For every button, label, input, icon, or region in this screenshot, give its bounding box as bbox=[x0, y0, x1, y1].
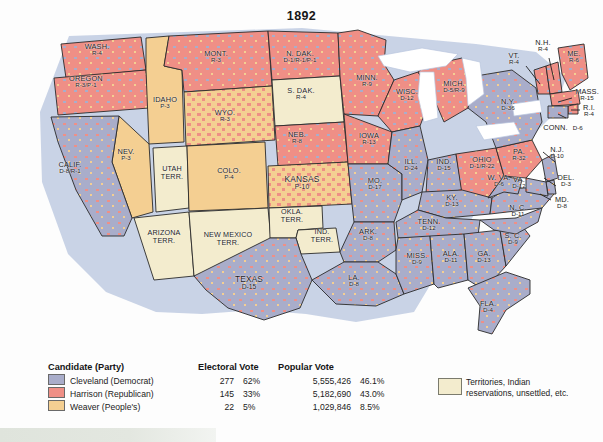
legend-electoral-vote-weaver: 22 bbox=[198, 402, 243, 412]
legend-popular-pct-cleveland: 46.1% bbox=[360, 376, 408, 386]
legend-popular-vote-cleveland: 5,555,426 bbox=[287, 376, 360, 386]
label-maine: ME. R-6 bbox=[562, 50, 586, 64]
label-rhode-island: R.I. R-4 bbox=[578, 104, 600, 118]
swatch-peoples-cell bbox=[48, 400, 70, 413]
label-iowa: IOWA R-13 bbox=[350, 132, 388, 146]
label-nebraska: NEB. R-8 bbox=[278, 131, 316, 145]
territory-legend-line1: Territories, Indian bbox=[466, 377, 530, 387]
legend-electoral-pct-harrison: 33% bbox=[243, 389, 287, 399]
label-west-virginia: W. VA. D-6 bbox=[484, 174, 514, 188]
label-wyoming: WYO. R-3 bbox=[206, 109, 244, 123]
label-colorado: COLO. P-4 bbox=[209, 167, 249, 181]
electoral-map-figure: 1892 bbox=[0, 0, 603, 442]
legend-header-popular-vote: Popular Vote bbox=[278, 362, 388, 372]
label-connecticut: CONN. D-6 bbox=[534, 124, 592, 132]
label-montana: MONT. R-3 bbox=[195, 50, 237, 64]
color-swatch-peoples bbox=[48, 400, 65, 411]
us-electoral-map-1892: WASH. R-4 OREGON R-3/P-1 IDAHO P-3 MONT.… bbox=[6, 22, 598, 352]
legend-electoral-pct-cleveland: 62% bbox=[243, 376, 287, 386]
legend-candidate-weaver: Weaver (People's) bbox=[70, 402, 198, 412]
label-oklahoma-territory: OKLA. TERR. bbox=[272, 208, 312, 223]
legend-header-electoral-vote: Electoral Vote bbox=[198, 362, 278, 372]
label-massachusetts: MASS. R-15 bbox=[572, 88, 602, 102]
label-utah-territory: UTAH TERR. bbox=[151, 165, 193, 180]
label-wisconsin: WISC. D-12 bbox=[388, 88, 426, 102]
label-nevada: NEV. P-3 bbox=[108, 148, 144, 162]
page-bottom-band bbox=[0, 428, 216, 442]
label-new-jersey: N.J. D-10 bbox=[545, 146, 569, 160]
label-mississippi: MISS. D-9 bbox=[402, 252, 432, 266]
legend-row-harrison: Harrison (Republican) 145 33% 5,182,690 … bbox=[48, 387, 468, 400]
map-legend: Candidate (Party) Electoral Vote Popular… bbox=[48, 362, 468, 413]
label-delaware: DEL. D-3 bbox=[554, 174, 578, 188]
state-south-dakota bbox=[272, 76, 344, 126]
label-michigan: MICH. D-5/R-9 bbox=[431, 80, 477, 94]
label-south-dakota: S. DAK. R-4 bbox=[275, 87, 327, 101]
label-oregon: OREGON R-3/P-1 bbox=[58, 75, 114, 89]
label-kentucky: KY. D-13 bbox=[438, 194, 466, 208]
legend-header-candidate: Candidate (Party) bbox=[48, 362, 198, 372]
legend-electoral-pct-weaver: 5% bbox=[243, 402, 287, 412]
label-florida: FLA. D-4 bbox=[474, 300, 502, 314]
legend-row-cleveland: Cleveland (Democrat) 277 62% 5,555,426 4… bbox=[48, 374, 468, 387]
swatch-republican-cell bbox=[48, 387, 70, 400]
label-louisiana: LA. D-8 bbox=[340, 274, 368, 288]
territory-legend-line2: reservations, unsettled, etc. bbox=[466, 388, 568, 398]
legend-row-weaver: Weaver (People's) 22 5% 1,029,846 8.5% bbox=[48, 400, 468, 413]
label-tennessee: TENN. D-12 bbox=[410, 218, 448, 232]
label-maryland: MD. D-8 bbox=[550, 196, 574, 210]
swatch-democrat-cell bbox=[48, 374, 70, 387]
label-idaho: IDAHO P-3 bbox=[144, 96, 186, 110]
label-kansas: KANSAS P-10 bbox=[274, 175, 330, 190]
page-title: 1892 bbox=[0, 9, 603, 23]
territory-legend-key: Territories, Indian reservations, unsett… bbox=[438, 377, 568, 399]
color-swatch-republican bbox=[48, 387, 65, 398]
legend-electoral-vote-cleveland: 277 bbox=[198, 376, 243, 386]
label-minnesota: MINN. R-9 bbox=[347, 74, 387, 88]
state-missouri bbox=[348, 164, 402, 222]
legend-electoral-vote-harrison: 145 bbox=[198, 389, 243, 399]
label-washington: WASH. R-4 bbox=[76, 43, 118, 57]
label-north-dakota: N. DAK. D-1/R-1/P-1 bbox=[264, 50, 336, 64]
state-rhode-island bbox=[568, 104, 578, 114]
legend-candidate-harrison: Harrison (Republican) bbox=[70, 389, 198, 399]
label-alabama: ALA. D-11 bbox=[436, 250, 466, 264]
legend-popular-pct-harrison: 43.0% bbox=[360, 389, 408, 399]
label-vermont: VT. R-4 bbox=[502, 52, 526, 66]
label-new-mexico-territory: NEW MEXICO TERR. bbox=[192, 231, 264, 246]
legend-popular-pct-weaver: 8.5% bbox=[360, 402, 408, 412]
territory-legend-text: Territories, Indian reservations, unsett… bbox=[466, 377, 568, 399]
label-ohio: OHIO D-1/R-22 bbox=[456, 156, 508, 170]
label-indiana: IND. D-15 bbox=[429, 158, 459, 172]
color-swatch-territory bbox=[438, 378, 462, 395]
label-north-carolina: N. C. D-11 bbox=[504, 204, 532, 218]
label-arizona-territory: ARIZONA TERR. bbox=[136, 229, 192, 244]
legend-popular-vote-weaver: 1,029,846 bbox=[287, 402, 360, 412]
label-texas: TEXAS D-15 bbox=[224, 275, 274, 290]
label-arkansas: ARK. D-8 bbox=[351, 228, 385, 242]
legend-header-row: Candidate (Party) Electoral Vote Popular… bbox=[48, 362, 468, 372]
state-connecticut bbox=[548, 106, 568, 118]
label-illinois: ILL. D-24 bbox=[396, 158, 426, 172]
label-missouri: MO. D-17 bbox=[358, 177, 392, 191]
legend-popular-vote-harrison: 5,182,690 bbox=[287, 389, 360, 399]
label-new-hampshire: N.H. R-4 bbox=[530, 39, 556, 53]
label-indian-territory: IND. TERR. bbox=[305, 228, 339, 243]
color-swatch-democrat bbox=[48, 374, 65, 385]
label-california: CALIF. D-8/R-1 bbox=[44, 161, 96, 175]
label-georgia: GA. D-13 bbox=[470, 250, 498, 264]
label-south-carolina: S. C. D-9 bbox=[500, 232, 526, 246]
legend-candidate-cleveland: Cleveland (Democrat) bbox=[70, 376, 198, 386]
label-pennsylvania: PA. R-32 bbox=[506, 148, 532, 162]
label-new-york: N.Y. D-36 bbox=[492, 98, 524, 112]
